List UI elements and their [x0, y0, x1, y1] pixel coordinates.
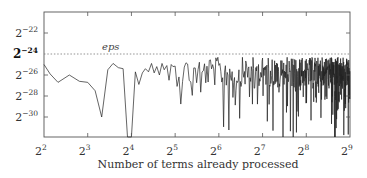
x-tick-label: 28 [297, 143, 309, 158]
x-tick-label: 23 [79, 143, 91, 158]
error-chart: 2223242526272829 2−222−242−262−282−30 Nu… [0, 0, 367, 178]
y-tick-label: 2−26 [15, 67, 38, 82]
error-series-line [44, 57, 350, 137]
x-tick-label: 25 [166, 143, 178, 158]
x-tick-label: 27 [254, 143, 266, 158]
x-axis-ticks: 2223242526272829 [35, 12, 353, 158]
x-tick-label: 29 [341, 143, 353, 158]
error-line [44, 57, 350, 137]
y-tick-label: 2−28 [15, 88, 38, 103]
x-tick-label: 24 [123, 143, 135, 158]
x-axis-title: Number of terms already processed [98, 158, 299, 171]
y-tick-label: 2−22 [15, 25, 38, 40]
y-tick-label: 2−30 [15, 109, 38, 124]
y-tick-label: 2−24 [13, 46, 38, 61]
eps-label: eps [102, 41, 119, 52]
x-tick-label: 26 [210, 143, 222, 158]
x-tick-label: 22 [35, 143, 47, 158]
